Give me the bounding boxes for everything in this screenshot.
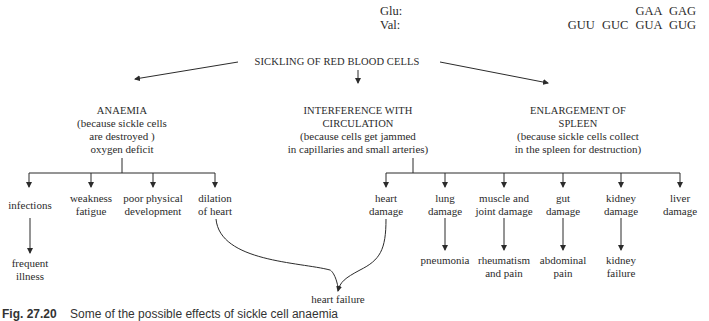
dilation-of-heart-node: dilation of heart — [185, 192, 245, 218]
val-codons: GUU GUC GUA GUG — [568, 18, 696, 32]
root-node: SICKLING OF RED BLOOD CELLS — [237, 55, 437, 68]
weakness-node: weakness fatigue — [61, 192, 121, 218]
glu-codons: GAA GAG — [635, 4, 696, 18]
infections-node: infections — [0, 199, 61, 212]
interference-node: INTERFERENCE WITH CIRCULATION (because c… — [258, 104, 458, 156]
poor-development-node: poor physical development — [113, 192, 193, 218]
arrow-to-anaemia — [135, 62, 238, 79]
val-label: Val: — [380, 18, 400, 32]
heart-failure-node: heart failure — [298, 293, 378, 306]
gut-damage-node: gut damage — [538, 192, 588, 218]
enlargement-node: ENLARGEMENT OF SPLEEN (because sickle ce… — [493, 104, 663, 156]
kidney-damage-node: kidney damage — [596, 192, 646, 218]
curve-dilation-to-heart-failure — [216, 219, 338, 287]
abdominal-pain-node: abdominal pain — [528, 254, 598, 280]
figure-number: Fig. 27.20 — [2, 307, 57, 321]
figure-caption: Fig. 27.20 Some of the possible effects … — [2, 307, 338, 321]
muscle-joint-damage-node: muscle and joint damage — [469, 192, 539, 218]
figure-caption-text: Some of the possible effects of sickle c… — [70, 307, 338, 321]
anaemia-title: ANAEMIA — [47, 104, 197, 117]
heart-damage-node: heart damage — [361, 192, 411, 218]
frequent-illness-node: frequent illness — [0, 257, 60, 283]
curve-heart-damage-to-heart-failure — [338, 219, 386, 291]
liver-damage-node: liver damage — [655, 192, 705, 218]
kidney-failure-node: kidney failure — [591, 254, 651, 280]
anaemia-node: ANAEMIA (because sickle cells are destro… — [47, 104, 197, 156]
arrow-to-enlargement — [440, 62, 548, 83]
lung-damage-node: lung damage — [420, 192, 470, 218]
glu-label: Glu: — [380, 4, 402, 18]
